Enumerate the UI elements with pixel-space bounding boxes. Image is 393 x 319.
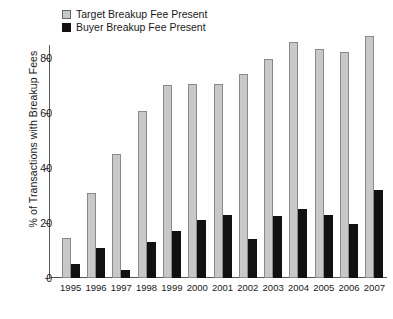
- bar-target-1996: [87, 193, 96, 278]
- bar-target-2005: [315, 49, 324, 278]
- x-tick-label-1995: 1995: [58, 282, 83, 293]
- x-tick-label-1997: 1997: [109, 282, 134, 293]
- bar-buyer-1997: [121, 270, 130, 278]
- y-tick-label: 80: [28, 52, 52, 64]
- x-tick-label-2006: 2006: [336, 282, 361, 293]
- bar-group-2005: [311, 30, 336, 278]
- bar-buyer-2000: [197, 220, 206, 278]
- plot-area: 020406080: [58, 30, 387, 278]
- bar-buyer-1996: [96, 248, 105, 278]
- legend-label-target: Target Breakup Fee Present: [76, 8, 207, 21]
- bar-target-2002: [239, 74, 248, 278]
- bar-buyer-2006: [349, 224, 358, 278]
- y-tick-label: 0: [28, 272, 52, 284]
- x-tick-label-2005: 2005: [311, 282, 336, 293]
- bar-group-2007: [362, 30, 387, 278]
- breakup-fee-bar-chart: Target Breakup Fee Present Buyer Breakup…: [0, 0, 393, 319]
- x-tick-label-1999: 1999: [159, 282, 184, 293]
- x-axis-tick-labels: 1995199619971998199920002001200220032004…: [58, 282, 387, 293]
- bar-buyer-2002: [248, 239, 257, 278]
- x-tick-label-2002: 2002: [235, 282, 260, 293]
- bar-buyer-1998: [147, 242, 156, 278]
- bar-target-1998: [138, 111, 147, 278]
- bar-group-1995: [58, 30, 83, 278]
- x-tick-label-2000: 2000: [185, 282, 210, 293]
- bar-group-1997: [109, 30, 134, 278]
- y-tick-label: 60: [28, 107, 52, 119]
- bar-buyer-2007: [374, 190, 383, 278]
- bar-target-2001: [214, 84, 223, 278]
- bar-group-2006: [336, 30, 361, 278]
- y-tick-label: 40: [28, 162, 52, 174]
- bar-target-2006: [340, 52, 349, 278]
- bar-group-2001: [210, 30, 235, 278]
- bar-group-2000: [185, 30, 210, 278]
- x-tick-label-1996: 1996: [83, 282, 108, 293]
- bar-buyer-2005: [324, 215, 333, 278]
- bar-group-2002: [235, 30, 260, 278]
- bar-group-2003: [261, 30, 286, 278]
- y-tick-label: 20: [28, 217, 52, 229]
- bar-target-2007: [365, 36, 374, 278]
- bar-buyer-1995: [71, 264, 80, 278]
- bar-target-2003: [264, 59, 273, 278]
- x-tick-label-2001: 2001: [210, 282, 235, 293]
- x-tick-label-2004: 2004: [286, 282, 311, 293]
- bar-target-1997: [112, 154, 121, 278]
- bar-buyer-2003: [273, 216, 282, 278]
- bar-group-2004: [286, 30, 311, 278]
- bar-target-1995: [62, 238, 71, 278]
- bar-target-1999: [163, 85, 172, 278]
- bar-series-container: [58, 30, 387, 278]
- bar-buyer-1999: [172, 231, 181, 278]
- bar-group-1998: [134, 30, 159, 278]
- x-tick-label-2003: 2003: [261, 282, 286, 293]
- bar-buyer-2004: [298, 209, 307, 278]
- bar-target-2004: [289, 42, 298, 278]
- legend-item-target: Target Breakup Fee Present: [62, 8, 207, 21]
- bar-buyer-2001: [223, 215, 232, 278]
- bar-group-1996: [83, 30, 108, 278]
- x-tick-label-2007: 2007: [362, 282, 387, 293]
- bar-target-2000: [188, 84, 197, 278]
- legend-swatch-target-icon: [62, 10, 71, 19]
- x-tick-label-1998: 1998: [134, 282, 159, 293]
- bar-group-1999: [159, 30, 184, 278]
